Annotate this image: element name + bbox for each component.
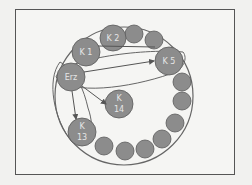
label-k1: K 1 <box>80 48 93 57</box>
label-k2: K 2 <box>107 34 120 43</box>
edge-erz-k13 <box>72 91 76 119</box>
label-k5: K 5 <box>163 57 176 66</box>
ring-diagram: K 1 K 2 K 5 Erz K 14 K 13 <box>0 0 252 185</box>
label-k13-line1: K <box>79 122 85 131</box>
label-k14-line1: K <box>116 94 122 103</box>
label-erz: Erz <box>65 73 78 82</box>
label-k13-line2: 13 <box>77 133 87 142</box>
label-k14-line2: 14 <box>114 105 124 114</box>
